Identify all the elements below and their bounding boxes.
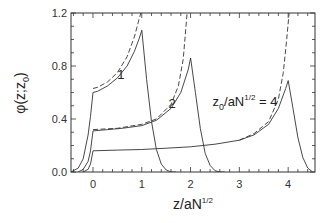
y-axis-title: φ(z;z0) [12,72,31,113]
x-tick-label: 1 [139,178,145,190]
series-line-2 [78,58,224,172]
axis-ticks [71,13,315,172]
series-line-4 [83,81,312,172]
plot-frame [71,13,315,172]
x-tick-label: 3 [236,178,242,190]
curve-label-1: 1 [117,67,124,82]
x-tick-label: 2 [187,178,193,190]
x-axis-title: z/aN1/2 [173,196,213,212]
x-tick-label: 0 [90,178,96,190]
series-line-0 [71,30,176,172]
curve-label-4: z0/aN1/2 = 4 [213,93,278,112]
series-line-3 [93,13,187,130]
y-tick-label: 0.0 [52,166,67,178]
plot-lines [71,13,313,172]
y-tick-label: 1.2 [52,7,67,19]
y-tick-label: 0.4 [52,113,67,125]
curve-label-2: 2 [169,96,176,111]
y-tick-label: 0.8 [52,60,67,72]
series-line-5 [239,13,289,140]
phi-profile-chart: 012340.00.40.81.2 12z0/aN1/2 = 4 z/aN1/2… [0,0,328,223]
x-tick-label: 4 [285,178,291,190]
